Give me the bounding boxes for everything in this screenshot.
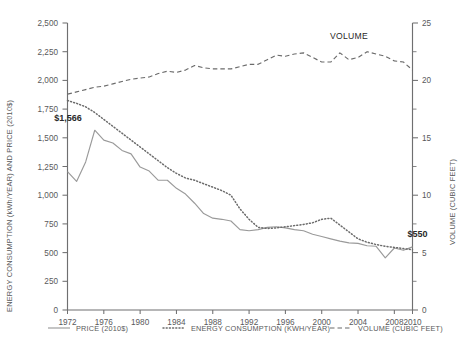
legend-label-3: VOLUME (CUBIC FEET) <box>358 324 443 333</box>
chart-legend: PRICE (2010$)ENERGY CONSUMPTION (KWH/YEA… <box>48 324 443 333</box>
y-tick-label: 2,500 <box>38 19 59 28</box>
line-chart: ENERGY CONSUMPTION (kWh/YEAR) AND PRICE … <box>0 0 463 342</box>
legend-label-2: ENERGY CONSUMPTION (KWH/YEAR) <box>191 324 330 333</box>
series-line-3 <box>68 52 413 94</box>
y-tick-label: 750 <box>44 220 58 229</box>
y-tick-label: 0 <box>53 306 58 315</box>
annotation-VOLUME: VOLUME <box>330 31 368 41</box>
legend-label-1: PRICE (2010$) <box>76 324 128 333</box>
y-tick-label: 1,250 <box>38 163 59 172</box>
y-tick-label: 1,000 <box>38 191 59 200</box>
series-line-2 <box>68 100 413 249</box>
y2-tick-label: 25 <box>422 19 432 28</box>
y-tick-label: 2,000 <box>38 76 59 85</box>
series-line-1 <box>68 130 413 258</box>
y2-axis-ticks: 0510152025 <box>413 19 432 315</box>
y2-tick-label: 10 <box>422 191 432 200</box>
series-layer <box>68 52 413 258</box>
y2-tick-label: 15 <box>422 134 432 143</box>
chart-container: ENERGY CONSUMPTION (kWh/YEAR) AND PRICE … <box>0 0 463 342</box>
y-tick-label: 2,250 <box>38 48 59 57</box>
y2-axis-title: VOLUME (CUBIC FEET) <box>448 159 457 245</box>
annotation-layer: $1,566$550VOLUME <box>54 31 427 239</box>
y2-tick-label: 0 <box>422 306 427 315</box>
y-axis-title: ENERGY CONSUMPTION (kWh/YEAR) AND PRICE … <box>5 100 14 312</box>
x-tick-label: 1984 <box>167 318 186 327</box>
y-tick-label: 250 <box>44 277 58 286</box>
annotation-550: $550 <box>407 229 427 239</box>
x-tick-label: 1980 <box>131 318 150 327</box>
annotation-1566: $1,566 <box>54 113 82 123</box>
x-tick-label: 1972 <box>58 318 77 327</box>
y-tick-label: 1,500 <box>38 134 59 143</box>
y2-tick-label: 5 <box>422 249 427 258</box>
y-tick-label: 500 <box>44 249 58 258</box>
y2-tick-label: 20 <box>422 76 432 85</box>
y-axis-ticks: 02505007501,0001,2501,5001,7502,0002,250… <box>38 19 68 315</box>
